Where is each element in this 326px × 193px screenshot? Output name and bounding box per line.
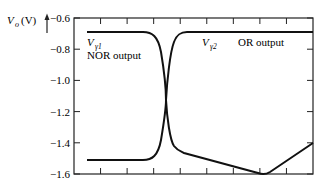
y-axis-title-unit: (V) [21, 14, 37, 27]
y-axis-tick-labels: −0.6−0.8−1.0−1.2−1.4−1.6 [50, 12, 70, 180]
annotation-or-output: OR output [238, 36, 284, 48]
y-tick-label: −0.8 [50, 43, 70, 55]
y-tick-label: −1.6 [50, 168, 70, 180]
vy1-main: V [87, 36, 95, 48]
y-axis-title: V o (V) [7, 14, 50, 34]
vy2-sub: γ2 [210, 42, 217, 51]
annotation-vy2: V γ2 [202, 36, 217, 51]
y-tick-label: −1.2 [50, 106, 70, 118]
vy2-main: V [202, 36, 210, 48]
y-axis-title-sub: o [15, 20, 19, 29]
y-tick-label: −0.6 [50, 12, 70, 24]
y-tick-label: −1.0 [50, 74, 70, 86]
y-axis-title-main: V [7, 14, 15, 26]
annotation-nor-output: NOR output [87, 49, 141, 61]
chart: −0.6−0.8−1.0−1.2−1.4−1.6 V o (V) V γ1 NO… [0, 0, 326, 193]
y-tick-label: −1.4 [50, 137, 70, 149]
arrow-up-icon [45, 14, 50, 21]
